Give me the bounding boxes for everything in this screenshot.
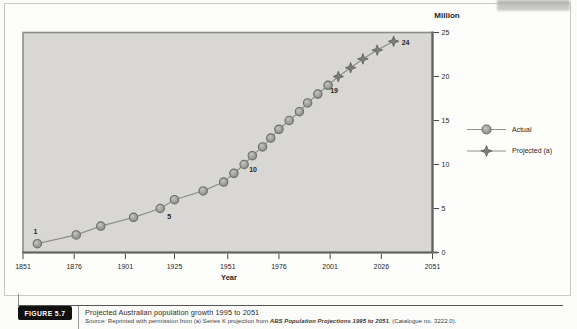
legend-marker-circle xyxy=(482,125,491,134)
point-value-label: 10 xyxy=(249,166,257,173)
x-axis-title: Year xyxy=(221,273,237,282)
data-point-circle xyxy=(248,152,256,160)
data-point-circle xyxy=(295,108,303,116)
plot-area xyxy=(23,33,433,253)
source-prefix: Source: xyxy=(85,318,106,324)
data-point-circle xyxy=(275,125,283,133)
data-point-circle xyxy=(303,99,311,107)
legend-marker-star xyxy=(481,145,492,156)
data-point-circle xyxy=(230,169,238,177)
source-suffix: , (Catalogue no. 3222.0). xyxy=(389,318,457,324)
x-tick-label: 1976 xyxy=(271,263,287,270)
legend-label: Actual xyxy=(512,126,532,133)
y-axis-title: Million xyxy=(434,11,459,20)
data-point-circle xyxy=(129,213,137,221)
data-point-circle xyxy=(267,134,275,142)
y-tick-label: 25 xyxy=(442,29,450,36)
y-tick-label: 5 xyxy=(442,205,446,212)
x-tick-label: 1925 xyxy=(167,263,183,270)
y-tick-label: 10 xyxy=(442,161,450,168)
data-point-circle xyxy=(156,204,164,212)
figure-source-note: Source: Reprinted with permission from (… xyxy=(85,318,573,324)
data-point-circle xyxy=(72,231,80,239)
y-tick-label: 15 xyxy=(442,117,450,124)
legend-label: Projected (a) xyxy=(512,147,552,155)
data-point-circle xyxy=(170,196,178,204)
data-point-circle xyxy=(219,178,227,186)
x-tick-label: 1951 xyxy=(220,263,236,270)
data-point-circle xyxy=(97,222,105,230)
x-tick-label: 2001 xyxy=(322,263,338,270)
data-point-circle xyxy=(285,116,293,124)
figure-number-badge: FIGURE 5.7 xyxy=(18,306,72,320)
source-text: Reprinted with permission from (a) Serie… xyxy=(106,318,270,324)
caption-divider xyxy=(78,306,79,329)
data-point-circle xyxy=(258,143,266,151)
source-publication-title: ABS Population Projections 1995 to 2051 xyxy=(270,318,389,324)
y-tick-label: 0 xyxy=(442,249,446,256)
data-point-circle xyxy=(314,90,322,98)
x-tick-label: 1851 xyxy=(15,263,31,270)
population-line-chart: 1851187619011925195119762001202620510510… xyxy=(0,0,577,302)
caption-rule xyxy=(18,305,563,306)
x-tick-label: 2026 xyxy=(374,263,390,270)
point-value-label: 19 xyxy=(330,87,338,94)
data-point-circle xyxy=(240,160,248,168)
x-tick-label: 2051 xyxy=(425,263,441,270)
point-value-label: 24 xyxy=(402,39,410,46)
data-point-circle xyxy=(33,240,41,248)
x-tick-label: 1876 xyxy=(66,263,82,270)
point-value-label: 5 xyxy=(167,213,171,220)
data-point-circle xyxy=(199,187,207,195)
figure-caption-title: Projected Australian population growth 1… xyxy=(85,308,555,317)
x-tick-label: 1901 xyxy=(118,263,134,270)
figure-number-label: FIGURE 5.7 xyxy=(24,310,65,317)
y-tick-label: 20 xyxy=(442,73,450,80)
point-value-label: 1 xyxy=(33,228,37,235)
